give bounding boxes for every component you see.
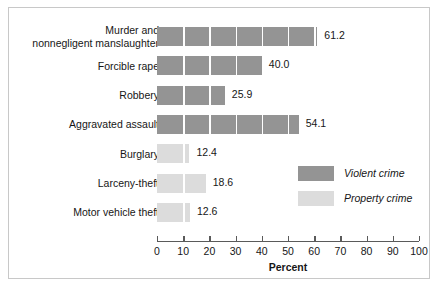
x-axis-tick (393, 236, 394, 241)
bar-separator (262, 115, 263, 134)
bar (157, 144, 189, 163)
category-label: Aggravated assault (0, 118, 159, 130)
bar-row: Robbery25.9 (0, 81, 444, 110)
bar-separator (236, 56, 237, 75)
bar-value-label: 40.0 (269, 58, 289, 70)
bar-separator (183, 203, 184, 222)
bar-separator (209, 115, 210, 134)
bar-value-label: 25.9 (232, 88, 252, 100)
bar-separator (236, 115, 237, 134)
bar-value-label: 61.2 (324, 29, 344, 41)
legend-label-violent-crime: Violent crime (344, 167, 405, 179)
category-label: Burglary (0, 148, 159, 160)
x-axis-tick-label: 100 (399, 245, 439, 257)
bar-separator (209, 27, 210, 46)
bar-row: Burglary12.4 (0, 139, 444, 168)
bar-value-label: 12.6 (197, 205, 217, 217)
x-axis-tick (157, 236, 158, 241)
bar (157, 27, 317, 46)
bar (157, 56, 262, 75)
bar-row: Aggravated assault54.1 (0, 110, 444, 139)
bar-separator (183, 144, 184, 163)
bar (157, 115, 299, 134)
bar-separator (183, 56, 184, 75)
bar-row: Forcible rape40.0 (0, 51, 444, 80)
legend-swatch-violent-crime (298, 166, 334, 181)
category-label: Murder and nonnegligent manslaughter (0, 24, 159, 49)
bar-value-label: 18.6 (213, 176, 233, 188)
bar-row: Murder and nonnegligent manslaughter61.2 (0, 22, 444, 51)
x-axis-tick (183, 236, 184, 241)
x-axis-tick (314, 236, 315, 241)
x-axis-tick (236, 236, 237, 241)
legend-swatch-property-crime (298, 191, 334, 206)
category-label: Forcible rape (0, 60, 159, 72)
legend-label-property-crime: Property crime (344, 192, 412, 204)
category-label: Larceny-theft (0, 177, 159, 189)
category-label: Motor vehicle theft (0, 206, 159, 218)
bar-separator (209, 56, 210, 75)
bar-separator (288, 115, 289, 134)
bar-value-label: 12.4 (196, 146, 216, 158)
x-axis-line (157, 241, 419, 242)
x-axis-tick (367, 236, 368, 241)
bar (157, 86, 225, 105)
x-axis-tick (340, 236, 341, 241)
x-axis-tick (419, 236, 420, 241)
bar-value-label: 54.1 (306, 117, 326, 129)
bar-separator (262, 27, 263, 46)
x-axis-tick (288, 236, 289, 241)
bar-separator (236, 27, 237, 46)
bar (157, 174, 206, 193)
bar (157, 203, 190, 222)
x-axis-tick (209, 236, 210, 241)
bar-separator (183, 86, 184, 105)
bar-separator (183, 27, 184, 46)
bar-separator (183, 174, 184, 193)
bar-separator (209, 86, 210, 105)
bar-chart-figure: Murder and nonnegligent manslaughter61.2… (0, 0, 444, 286)
category-label: Robbery (0, 89, 159, 101)
x-axis-tick (262, 236, 263, 241)
bar-separator (288, 27, 289, 46)
bar-separator (183, 115, 184, 134)
bar-separator (314, 27, 315, 46)
x-axis-label: Percent (157, 261, 419, 273)
